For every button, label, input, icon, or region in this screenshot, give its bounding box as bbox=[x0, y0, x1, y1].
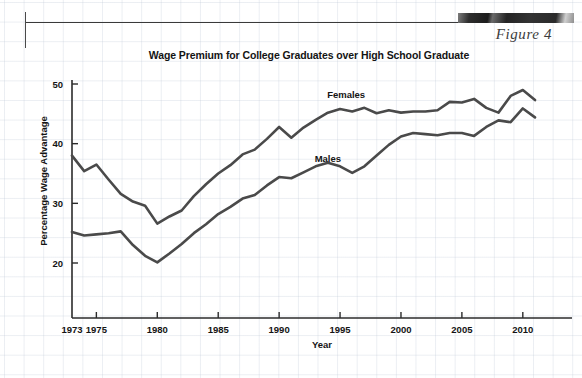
y-axis-tick-label: 50 bbox=[52, 79, 63, 90]
x-axis-tick-label: 1995 bbox=[329, 324, 351, 335]
x-axis-tick-label: 2005 bbox=[451, 324, 473, 335]
x-axis-tick-label: 1990 bbox=[269, 324, 290, 335]
x-axis-tick-label: 1973 bbox=[61, 324, 82, 335]
y-axis-tick-label: 30 bbox=[52, 198, 63, 209]
series-label-males: Males bbox=[315, 153, 341, 164]
series-line-females bbox=[72, 90, 535, 224]
y-axis-tick-label: 40 bbox=[52, 138, 63, 149]
series-line-males bbox=[72, 108, 535, 262]
x-axis-tick-label: 2000 bbox=[390, 324, 411, 335]
line-chart-svg: 20304050 1973197519801985199019952000200… bbox=[0, 0, 582, 378]
y-axis-tick-label: 20 bbox=[52, 258, 63, 269]
x-axis-tick-label: 1985 bbox=[208, 324, 230, 335]
x-axis-tick-label: 2010 bbox=[512, 324, 533, 335]
y-axis-title: Percentage Wage Advantage bbox=[38, 116, 49, 246]
x-axis-title: Year bbox=[312, 339, 332, 350]
data-series-group bbox=[72, 90, 535, 262]
chart-plot-area: 20304050 1973197519801985199019952000200… bbox=[0, 0, 582, 378]
series-labels-group: FemalesMales bbox=[315, 89, 365, 163]
x-axis-tick-label: 1980 bbox=[147, 324, 168, 335]
x-axis-ticks: 197319751980198519901995200020052010 bbox=[61, 312, 533, 335]
y-axis-ticks: 20304050 bbox=[52, 79, 78, 269]
x-axis-tick-label: 1975 bbox=[86, 324, 108, 335]
axis-titles-group: YearPercentage Wage Advantage bbox=[38, 116, 332, 350]
series-label-females: Females bbox=[327, 89, 365, 100]
